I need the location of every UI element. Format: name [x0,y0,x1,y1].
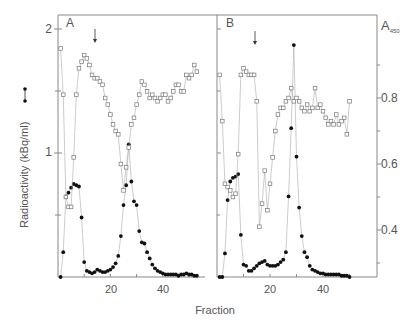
open-square-marker [268,182,272,186]
filled-circle-marker [143,242,147,246]
filled-circle-marker [223,252,227,256]
filled-circle-marker [129,180,133,184]
open-square-marker [271,156,275,160]
panel-label-a: A [66,16,74,30]
open-square-marker [116,133,120,137]
filled-circle-marker [303,250,307,254]
filled-circle-marker [263,259,267,263]
filled-circle-marker [289,126,293,130]
open-square-marker [61,93,65,97]
open-square-marker [103,96,107,100]
open-square-marker [228,189,232,193]
open-square-marker [75,93,79,97]
radioactivity-line-A [61,144,197,277]
open-square-marker [252,73,256,77]
open-square-marker [88,63,92,67]
filled-circle-marker [281,258,285,262]
filled-circle-marker [111,265,115,269]
filled-circle-marker [228,180,232,184]
open-square-marker [145,90,149,94]
filled-circle-marker [124,183,128,187]
filled-circle-marker [195,274,199,278]
open-square-marker [305,103,309,107]
left-tick-label-1: 1 [45,145,52,159]
open-square-marker [164,93,168,97]
open-square-marker [77,67,81,71]
open-square-marker [236,152,240,156]
open-square-marker [109,113,113,117]
right-tick-label-0.8: 0.8 [381,91,398,105]
open-square-marker [297,100,301,104]
plot-frame [58,15,377,277]
open-square-marker [135,103,139,107]
open-square-marker [130,123,134,127]
open-square-marker [190,73,194,77]
open-square-marker [303,109,307,113]
open-square-marker [319,103,323,107]
filled-circle-marker [305,255,309,259]
right-tick-label-0.6: 0.6 [381,157,398,171]
open-square-marker [72,156,76,160]
open-square-marker [260,202,264,206]
filled-circle-marker [239,233,243,237]
chart-figure: 2 1 0.8 0.6 0.4 A450 20 40 20 40 Fractio… [0,0,418,328]
open-square-marker [143,83,147,87]
y-axis-title: Radioactivity (kBq/ml) [18,122,30,228]
arrow-down-icon-a [93,29,97,43]
open-square-marker [122,189,126,193]
open-square-marker [80,60,84,64]
filled-circle-marker [80,216,84,220]
open-square-marker [221,119,225,123]
filled-circle-marker [67,191,71,195]
open-square-marker [119,162,123,166]
x-tick-label-a-40: 40 [157,283,169,295]
filled-circle-marker [308,264,312,268]
panel-label-b: B [226,16,234,30]
open-square-marker [64,195,68,199]
open-square-marker [255,100,259,104]
filled-circle-marker [145,250,149,254]
filled-circle-marker [284,250,288,254]
filled-circle-marker [220,275,224,279]
x-axis-title: Fraction [195,304,235,316]
a450-line-B [220,68,350,226]
right-tick-label-0.4: 0.4 [381,223,398,237]
left-tick-label-2: 2 [45,22,52,36]
x-tick-label-a-20: 20 [105,283,117,295]
filled-circle-marker [135,203,139,207]
open-square-marker [106,103,110,107]
open-square-marker [332,123,336,127]
filled-circle-marker [59,275,63,279]
open-square-marker [192,63,196,67]
a450-line-A [61,49,197,207]
open-square-marker [124,166,128,170]
filled-circle-marker [137,229,141,233]
arrow-down-icon-b [253,31,257,45]
filled-circle-marker [287,195,291,199]
open-square-marker [177,83,181,87]
filled-circle-marker [148,257,152,261]
open-square-marker [263,169,267,173]
open-square-marker [276,113,280,117]
open-square-marker [85,57,89,61]
filled-circle-marker [132,199,136,203]
filled-circle-marker [297,206,301,210]
open-square-marker [313,86,317,90]
x-tick-label-b-40: 40 [317,283,329,295]
filled-circle-marker [295,155,299,159]
open-square-marker [182,90,186,94]
open-square-marker [258,225,262,229]
open-square-marker [345,133,349,137]
open-square-marker [171,90,175,94]
open-square-marker [137,93,141,97]
open-square-marker [69,205,73,209]
open-square-marker [132,116,136,120]
open-square-marker [234,192,238,196]
open-square-marker [266,208,270,212]
open-square-marker [169,96,173,100]
filled-circle-marker [150,263,154,267]
open-square-marker [239,73,243,77]
legend-filled-circle-icon [23,87,27,103]
filled-circle-marker [114,261,118,265]
open-square-marker [281,106,285,110]
